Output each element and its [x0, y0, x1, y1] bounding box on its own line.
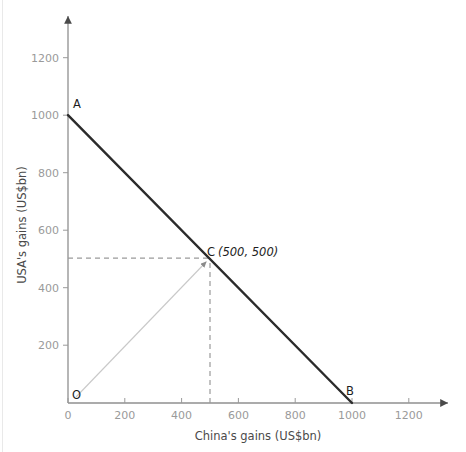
y-tick-label-600: 600 — [38, 224, 59, 237]
y-tick-label-800: 800 — [38, 167, 59, 180]
x-tick-label-200: 200 — [114, 409, 135, 422]
point-label-o: O — [72, 388, 81, 402]
axes-group — [68, 16, 448, 403]
point-label-a: A — [73, 97, 81, 111]
x-tick-label-0: 0 — [65, 409, 72, 422]
x-tick-labels: 0 200 400 600 800 1000 1200 — [65, 409, 423, 422]
point-label-c-coords: (500, 500) — [218, 245, 278, 259]
y-tick-label-200: 200 — [38, 339, 59, 352]
bargaining-frontier-line-ab — [68, 115, 352, 403]
x-axis-title: China's gains (US$bn) — [195, 429, 322, 443]
x-tick-label-400: 400 — [171, 409, 192, 422]
y-tick-marks — [63, 58, 68, 346]
x-tick-label-1000: 1000 — [338, 409, 366, 422]
y-axis-title: USA's gains (US$bn) — [15, 166, 29, 284]
y-tick-label-400: 400 — [38, 282, 59, 295]
x-tick-label-1200: 1200 — [395, 409, 423, 422]
x-tick-label-600: 600 — [228, 409, 249, 422]
y-tick-label-1000: 1000 — [31, 109, 59, 122]
y-tick-label-1200: 1200 — [31, 52, 59, 65]
y-tick-labels: 1200 1000 800 600 400 200 — [31, 52, 59, 353]
point-label-b: B — [346, 384, 354, 398]
x-tick-marks — [68, 398, 409, 403]
trade-gains-chart: 1200 1000 800 600 400 200 0 200 400 600 … — [0, 0, 466, 452]
x-tick-label-800: 800 — [285, 409, 306, 422]
origin-to-c-ray — [76, 262, 207, 398]
chart-canvas: 1200 1000 800 600 400 200 0 200 400 600 … — [0, 0, 466, 452]
point-label-c: C — [207, 245, 215, 259]
